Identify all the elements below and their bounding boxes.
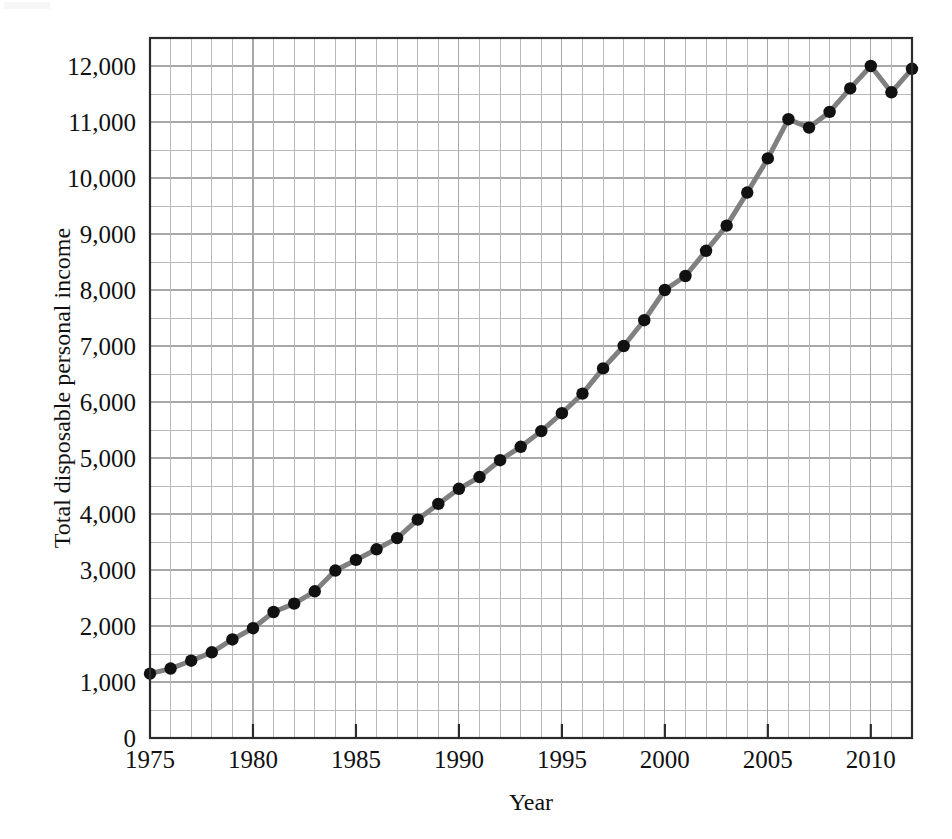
data-point <box>185 655 197 667</box>
data-point <box>679 270 691 282</box>
data-point <box>576 387 588 399</box>
data-point <box>741 186 753 198</box>
data-point <box>638 314 650 326</box>
y-axis-tick-label: 8,000 <box>80 277 136 304</box>
data-point <box>659 284 671 296</box>
x-axis-title: Year <box>509 789 553 815</box>
data-point <box>391 532 403 544</box>
plot-background <box>150 38 912 738</box>
data-point <box>473 471 485 483</box>
data-point <box>309 585 321 597</box>
y-axis-tick-label: 3,000 <box>80 557 136 584</box>
data-point <box>865 60 877 72</box>
data-point <box>617 340 629 352</box>
data-point <box>226 633 238 645</box>
data-point <box>515 441 527 453</box>
y-axis-tick-label: 6,000 <box>80 389 136 416</box>
y-axis-tick-label: 9,000 <box>80 221 136 248</box>
data-point <box>164 662 176 674</box>
y-axis-title: Total disposable personal income <box>49 228 75 548</box>
data-point <box>720 219 732 231</box>
data-point <box>597 362 609 374</box>
data-point <box>823 106 835 118</box>
y-axis-tick-label: 10,000 <box>67 165 136 192</box>
data-point <box>494 454 506 466</box>
y-axis-tick-label: 4,000 <box>80 501 136 528</box>
data-point <box>535 425 547 437</box>
x-axis-tick-label: 2010 <box>846 746 896 773</box>
data-point <box>432 498 444 510</box>
data-point <box>885 86 897 98</box>
y-axis-tick-label: 7,000 <box>80 333 136 360</box>
x-axis-tick-label: 1980 <box>228 746 278 773</box>
data-point <box>350 554 362 566</box>
x-axis-tick-label: 1990 <box>434 746 484 773</box>
x-axis-tick-label: 2000 <box>640 746 690 773</box>
data-point <box>700 245 712 257</box>
data-point <box>556 407 568 419</box>
data-point <box>844 82 856 94</box>
chart-figure: 01,0002,0003,0004,0005,0006,0007,0008,00… <box>0 0 952 839</box>
y-axis-tick-label: 5,000 <box>80 445 136 472</box>
x-axis-tick-label: 1975 <box>125 746 175 773</box>
data-point <box>329 564 341 576</box>
data-point <box>267 606 279 618</box>
data-point <box>762 152 774 164</box>
y-axis-tick-label: 1,000 <box>80 669 136 696</box>
y-axis-tick-label: 2,000 <box>80 613 136 640</box>
data-point <box>453 483 465 495</box>
data-point <box>803 121 815 133</box>
x-axis-tick-label: 1995 <box>537 746 587 773</box>
data-point <box>412 513 424 525</box>
data-point <box>247 622 259 634</box>
x-axis-tick-label: 2005 <box>743 746 793 773</box>
data-point <box>370 543 382 555</box>
line-chart: 01,0002,0003,0004,0005,0006,0007,0008,00… <box>0 0 952 839</box>
y-axis-tick-label: 12,000 <box>67 53 136 80</box>
x-axis-tick-label: 1985 <box>331 746 381 773</box>
y-axis-tick-label: 11,000 <box>68 109 136 136</box>
data-point <box>288 597 300 609</box>
data-point <box>206 646 218 658</box>
data-point <box>782 113 794 125</box>
